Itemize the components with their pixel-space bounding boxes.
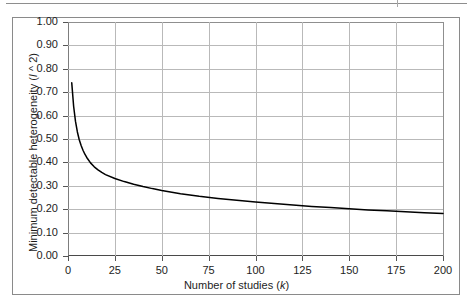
x-tick-mark [443,256,444,261]
gridline-vertical [302,22,303,256]
x-tick-label: 75 [189,265,229,276]
x-axis-title-prefix: Number of studies ( [184,279,280,291]
y-axis-title-suffix: ^ 2) [27,53,39,74]
x-tick-label: 150 [329,265,369,276]
x-tick-mark [115,256,116,261]
gridline-vertical [256,22,257,256]
y-tick-mark [63,209,68,210]
y-tick-label: 0.90 [14,39,58,50]
x-tick-label: 100 [236,265,276,276]
gridline-vertical [162,22,163,256]
header-rule-tick [397,0,398,7]
x-tick-mark [396,256,397,261]
x-tick-mark [68,256,69,261]
x-tick-mark [349,256,350,261]
y-axis-title: Minimum detectable heterogeneity (I ^ 2) [27,53,39,252]
x-axis-title-suffix: ) [285,279,289,291]
y-tick-mark [63,233,68,234]
plot-right-border [443,22,444,256]
y-axis-title-symbol: I [27,74,39,77]
y-tick-mark [63,69,68,70]
x-tick-label: 25 [95,265,135,276]
x-tick-mark [256,256,257,261]
y-tick-mark [63,22,68,23]
y-tick-label: 1.00 [14,16,58,27]
gridline-vertical [396,22,397,256]
x-tick-label: 0 [48,265,88,276]
y-tick-mark [63,92,68,93]
x-tick-mark [302,256,303,261]
gridline-vertical [115,22,116,256]
y-tick-mark [63,186,68,187]
y-tick-mark [63,139,68,140]
x-tick-label: 200 [423,265,463,276]
x-axis-title: Number of studies (k) [0,279,473,291]
gridline-vertical [349,22,350,256]
x-tick-label: 125 [282,265,322,276]
y-tick-mark [63,45,68,46]
gridline-vertical [209,22,210,256]
y-axis-title-prefix: Minimum detectable heterogeneity ( [27,77,39,252]
y-tick-mark [63,116,68,117]
x-tick-label: 50 [142,265,182,276]
x-tick-label: 175 [376,265,416,276]
y-tick-mark [63,162,68,163]
x-tick-mark [209,256,210,261]
x-tick-mark [162,256,163,261]
